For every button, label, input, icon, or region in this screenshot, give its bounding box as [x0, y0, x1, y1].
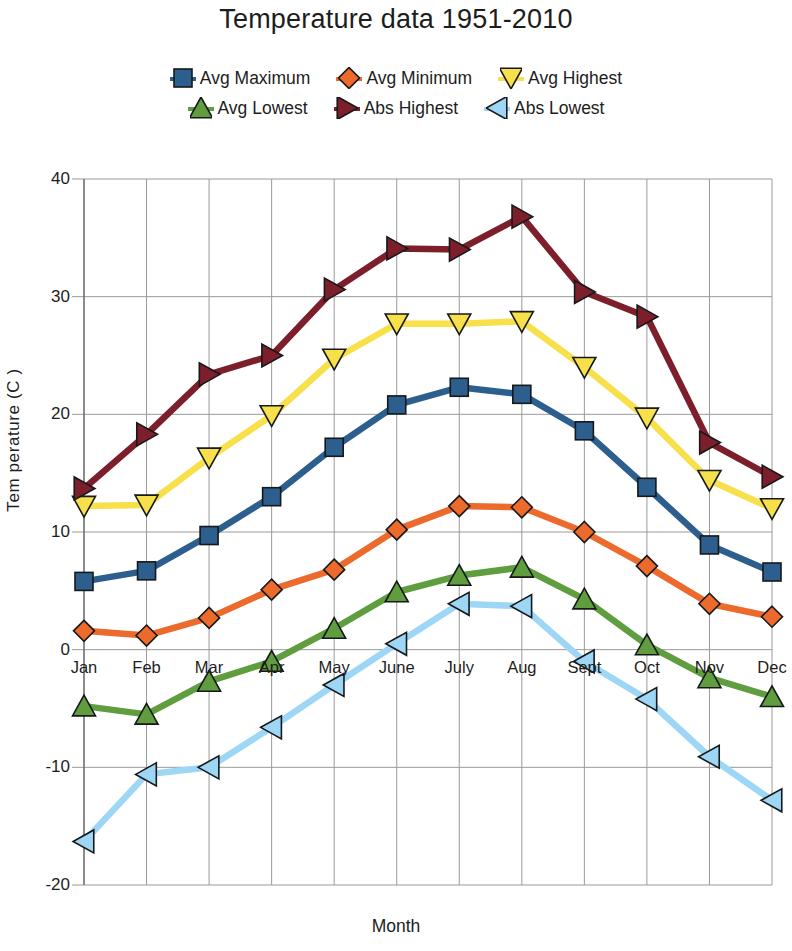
legend-diamond-icon: [336, 70, 362, 87]
x-tick-label: Feb: [132, 658, 160, 677]
y-axis-title: Tem perature (C ): [4, 180, 24, 700]
legend-item-avg-highest[interactable]: Avg Highest: [498, 63, 622, 93]
legend-item-avg-maximum[interactable]: Avg Maximum: [170, 63, 311, 93]
x-tick-label: Mar: [195, 658, 223, 677]
legend-triangle-right-icon: [334, 100, 360, 117]
x-tick-label: May: [319, 658, 350, 677]
x-tick-label: Oct: [634, 658, 660, 677]
plot-area: 403020100-10-20 JanFebMarAprMayJuneJulyA…: [0, 150, 792, 910]
series-avg-maximum: [75, 378, 781, 590]
series-abs-lowest: [73, 592, 782, 853]
legend-label: Abs Highest: [364, 93, 458, 123]
temperature-chart: Temperature data 1951-2010 Avg MaximumAv…: [0, 0, 792, 951]
legend-item-avg-minimum[interactable]: Avg Minimum: [336, 63, 472, 93]
x-tick-label: Apr: [259, 658, 285, 677]
y-tick-label: -10: [14, 757, 70, 777]
x-tick-label: Aug: [507, 658, 536, 677]
legend-label: Abs Lowest: [514, 93, 604, 123]
x-tick-label: July: [445, 658, 474, 677]
legend-label: Avg Maximum: [200, 63, 311, 93]
series-avg-highest: [73, 312, 784, 520]
chart-legend: Avg MaximumAvg MinimumAvg HighestAvg Low…: [0, 63, 792, 123]
x-tick-label: Dec: [757, 658, 786, 677]
x-tick-label: Sept: [567, 658, 601, 677]
legend-item-abs-lowest[interactable]: Abs Lowest: [484, 93, 604, 123]
y-tick-label: -20: [14, 875, 70, 895]
legend-label: Avg Minimum: [366, 63, 472, 93]
chart-title: Temperature data 1951-2010: [0, 4, 792, 35]
legend-triangle-up-icon: [188, 100, 214, 117]
x-axis-title: Month: [0, 916, 792, 937]
plot-svg: [0, 150, 792, 910]
legend-item-avg-lowest[interactable]: Avg Lowest: [188, 93, 308, 123]
legend-item-abs-highest[interactable]: Abs Highest: [334, 93, 458, 123]
legend-triangle-down-icon: [498, 70, 524, 87]
x-tick-label: June: [379, 658, 415, 677]
legend-square-icon: [170, 70, 196, 87]
legend-label: Avg Highest: [528, 63, 622, 93]
series-abs-highest: [74, 205, 783, 500]
legend-label: Avg Lowest: [218, 93, 308, 123]
legend-triangle-left-icon: [484, 100, 510, 117]
x-tick-label: Nov: [695, 658, 724, 677]
grid-lines: [72, 179, 772, 885]
x-tick-label: Jan: [71, 658, 98, 677]
